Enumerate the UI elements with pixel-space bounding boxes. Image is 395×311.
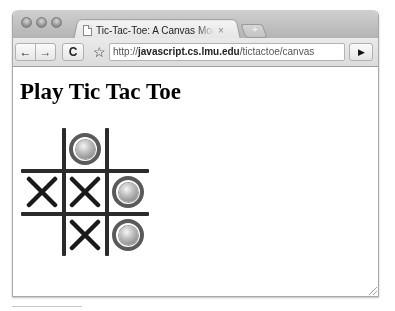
minimize-window-button[interactable] [36, 17, 47, 28]
address-bar[interactable]: http://javascript.cs.lmu.edu/tictactoe/c… [109, 43, 345, 61]
plus-icon: + [248, 23, 262, 37]
browser-window: Tic-Tac-Toe: A Canvas Model × + ← → C ☆ … [12, 10, 379, 297]
o-mark-icon [69, 133, 101, 165]
url-host: javascript.cs.lmu.edu [138, 46, 240, 57]
page-content: Play Tic Tac Toe [13, 67, 378, 296]
tic-tac-toe-canvas[interactable] [21, 128, 151, 256]
o-mark-icon [112, 219, 144, 251]
bookmark-star-icon[interactable]: ☆ [90, 43, 108, 61]
tab-title: Tic-Tac-Toe: A Canvas Model [96, 25, 214, 36]
x-mark-icon [26, 176, 58, 208]
board-cell-r1-c3[interactable] [107, 128, 149, 170]
close-window-button[interactable] [21, 17, 32, 28]
page-title: Play Tic Tac Toe [20, 79, 181, 105]
board-cell-r3-c1[interactable] [21, 214, 63, 256]
o-mark-icon [112, 176, 144, 208]
back-button[interactable]: ← [15, 43, 36, 61]
board-cell-r3-c2[interactable] [64, 214, 106, 256]
board-cell-r2-c2[interactable] [64, 171, 106, 213]
url-scheme: http:// [113, 46, 138, 57]
board-cell-r1-c1[interactable] [21, 128, 63, 170]
tab-content[interactable]: Tic-Tac-Toe: A Canvas Model × [83, 22, 233, 38]
forward-button[interactable]: → [35, 43, 56, 61]
o-mark-ball [76, 140, 95, 159]
url-path: /tictactoe/canvas [240, 46, 314, 57]
browser-toolbar: ← → C ☆ http://javascript.cs.lmu.edu/tic… [13, 38, 378, 67]
x-mark-icon [69, 176, 101, 208]
document-icon [83, 25, 92, 36]
resize-handle-icon[interactable] [367, 285, 377, 295]
board-cell-r3-c3[interactable] [107, 214, 149, 256]
o-mark-ball [119, 226, 138, 245]
tab-close-icon[interactable]: × [218, 25, 224, 36]
board-cell-r2-c3[interactable] [107, 171, 149, 213]
reload-button[interactable]: C [62, 43, 84, 61]
arrow-left-icon: ← [20, 45, 32, 59]
play-icon: ▶ [358, 47, 365, 57]
go-button[interactable]: ▶ [349, 43, 373, 61]
x-mark-icon [69, 219, 101, 251]
board-cell-r2-c1[interactable] [21, 171, 63, 213]
o-mark-ball [119, 183, 138, 202]
arrow-right-icon: → [40, 45, 52, 59]
reload-icon: C [69, 45, 78, 59]
title-bar: Tic-Tac-Toe: A Canvas Model × + [13, 10, 378, 38]
divider [12, 306, 82, 307]
zoom-window-button[interactable] [51, 17, 62, 28]
board-cell-r1-c2[interactable] [64, 128, 106, 170]
